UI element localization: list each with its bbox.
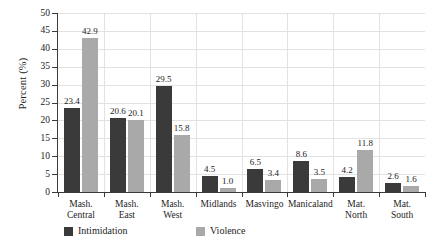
y-axis-tick — [52, 103, 58, 104]
bar-1-2 — [174, 135, 190, 192]
x-axis-tick-label: Mat.South — [362, 199, 442, 221]
y-axis-tick-label: 30 — [28, 80, 50, 89]
y-axis-tick — [52, 138, 58, 139]
bar-1-6 — [357, 150, 373, 192]
x-axis-tick — [104, 192, 105, 197]
y-axis-tick-label: 40 — [28, 44, 50, 53]
gridline-vertical — [104, 13, 105, 192]
chart-legend: IntimidationViolence — [0, 224, 442, 242]
x-axis-tick — [425, 192, 426, 197]
y-axis-tick — [52, 156, 58, 157]
bar-0-1 — [110, 118, 126, 192]
bar-1-5 — [311, 179, 327, 192]
y-axis-tick — [52, 13, 58, 14]
bar-value-label: 3.5 — [305, 168, 333, 177]
plot-area: 23.442.920.620.129.515.84.51.06.53.48.63… — [58, 13, 425, 192]
bar-1-4 — [265, 180, 281, 192]
y-axis-tick-label: 15 — [28, 134, 50, 143]
bar-value-label: 8.6 — [287, 150, 315, 159]
x-axis-tick — [58, 192, 59, 197]
bar-value-label: 11.8 — [351, 139, 379, 148]
y-axis-tick-label: 35 — [28, 62, 50, 71]
legend-swatch-icon — [64, 227, 73, 236]
bar-value-label: 15.8 — [168, 124, 196, 133]
y-axis-tick-label: 20 — [28, 116, 50, 125]
y-axis-tick-label: 5 — [28, 170, 50, 179]
y-axis-tick — [52, 31, 58, 32]
x-axis-tick — [196, 192, 197, 197]
bar-value-label: 29.5 — [150, 75, 178, 84]
x-axis-tick-label-line: South — [362, 210, 442, 221]
legend-swatch-icon — [196, 227, 205, 236]
y-axis-tick-label: 25 — [28, 98, 50, 107]
x-axis-tick — [287, 192, 288, 197]
bar-value-label: 1.6 — [397, 175, 425, 184]
bar-value-label: 6.5 — [241, 158, 269, 167]
x-axis-tick — [150, 192, 151, 197]
bar-value-label: 4.5 — [196, 165, 224, 174]
y-axis-tick — [52, 85, 58, 86]
bar-0-0 — [64, 108, 80, 192]
y-axis-tick-label: 45 — [28, 26, 50, 35]
x-axis-tick-label-line: West — [133, 210, 213, 221]
x-axis-tick — [242, 192, 243, 197]
x-axis-tick — [379, 192, 380, 197]
legend-item[interactable]: Intimidation — [64, 226, 127, 236]
y-axis-tick-label: 0 — [28, 188, 50, 197]
legend-label: Violence — [210, 226, 246, 236]
y-axis-tick-label: 10 — [28, 152, 50, 161]
y-axis-tick — [52, 49, 58, 50]
bar-0-2 — [156, 86, 172, 192]
bar-0-6 — [339, 177, 355, 192]
y-axis-tick-label: 50 — [28, 9, 50, 18]
gridline-vertical — [150, 13, 151, 192]
x-axis-tick-label-line: Mat. — [362, 199, 442, 210]
legend-label: Intimidation — [78, 226, 127, 236]
y-axis-tick — [52, 174, 58, 175]
y-axis-title: Percent (%) — [17, 29, 28, 139]
y-axis-tick — [52, 67, 58, 68]
bar-chart: Percent (%) 23.442.920.620.129.515.84.51… — [0, 0, 442, 246]
gridline-vertical — [287, 13, 288, 192]
gridline-vertical — [379, 13, 380, 192]
bar-1-0 — [82, 38, 98, 192]
bar-1-1 — [128, 120, 144, 192]
bar-value-label: 3.4 — [259, 169, 287, 178]
bar-value-label: 20.1 — [122, 109, 150, 118]
bar-value-label: 42.9 — [76, 27, 104, 36]
y-axis-tick — [52, 120, 58, 121]
x-axis-tick — [333, 192, 334, 197]
legend-item[interactable]: Violence — [196, 226, 246, 236]
bar-value-label: 1.0 — [214, 177, 242, 186]
